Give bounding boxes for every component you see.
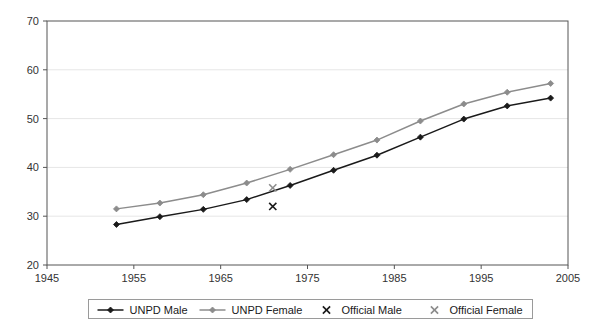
x-tick-label-1965: 1965 xyxy=(208,272,232,284)
x-tick-label-1955: 1955 xyxy=(122,272,146,284)
x-tick-label-2005: 2005 xyxy=(556,272,580,284)
line-chart: 203040506070 194519551965197519851995200… xyxy=(0,0,612,331)
y-tick-label-30: 30 xyxy=(27,210,39,222)
x-tick-label-1975: 1975 xyxy=(295,272,319,284)
legend-label-official-female: Official Female xyxy=(450,304,523,316)
y-tick-label-70: 70 xyxy=(27,15,39,27)
legend-label-unpd-male: UNPD Male xyxy=(130,304,188,316)
y-tick-label-40: 40 xyxy=(27,161,39,173)
x-tick-label-1985: 1985 xyxy=(382,272,406,284)
x-tick-label-1945: 1945 xyxy=(35,272,59,284)
y-tick-label-50: 50 xyxy=(27,113,39,125)
chart-screenshot: 203040506070 194519551965197519851995200… xyxy=(0,0,612,331)
y-tick-label-60: 60 xyxy=(27,64,39,76)
legend-label-official-male: Official Male xyxy=(342,304,402,316)
x-tick-label-1995: 1995 xyxy=(469,272,493,284)
y-tick-label-20: 20 xyxy=(27,259,39,271)
chart-legend: UNPD MaleUNPD FemaleOfficial MaleOfficia… xyxy=(89,300,533,319)
legend-label-unpd-female: UNPD Female xyxy=(232,304,303,316)
